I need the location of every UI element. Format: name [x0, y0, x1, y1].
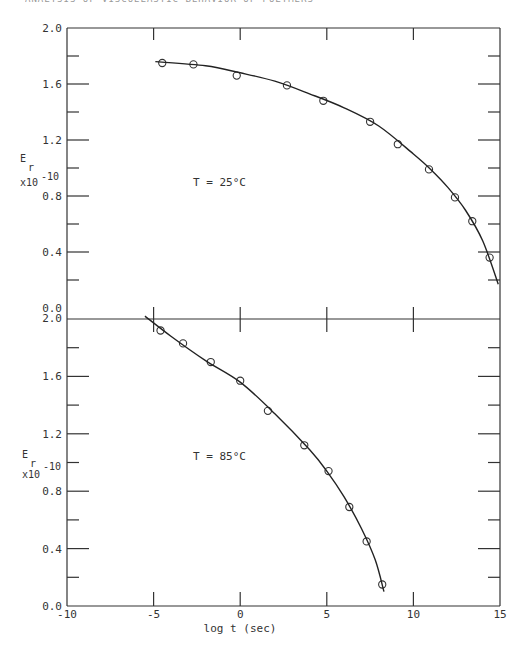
top-y-axis-title: E r x10 -10	[20, 153, 59, 188]
x-tick-label: -5	[147, 608, 160, 621]
data-point-marker	[159, 59, 166, 66]
bottom-y-axis-title: E r x10 -10	[22, 449, 61, 480]
x-tick-label: 10	[407, 608, 420, 621]
top-y-tick-labels: 2.01.61.20.80.40.0	[42, 22, 62, 315]
y-tick-label: 1.6	[42, 78, 62, 91]
x-axis-title: log t (sec)	[204, 622, 277, 635]
running-head: ANALYSIS OF VISCOELASTIC BEHAVIOR OF POL…	[25, 0, 505, 4]
y-tick-label: 0.8	[42, 190, 62, 203]
x-tick-label: 15	[493, 608, 506, 621]
ylabel-sub: r	[28, 162, 34, 173]
ylabel-main: E	[22, 449, 28, 460]
x-tick-label: -10	[57, 608, 77, 621]
top-panel-frame	[67, 28, 500, 606]
y-tick-label: 2.0	[42, 312, 62, 325]
data-point-marker	[264, 407, 271, 414]
top-series	[155, 59, 498, 284]
bottom-annotation: T = 85°C	[193, 450, 246, 463]
y-tick-label: 1.2	[42, 134, 62, 147]
axis-ticks	[67, 28, 500, 606]
ylabel-mult: x10	[20, 177, 38, 188]
fitted-curve	[155, 62, 498, 285]
chart: 2.01.61.20.80.40.0 2.01.61.20.80.40.0 -1…	[0, 0, 527, 648]
y-tick-label: 1.2	[42, 428, 62, 441]
ylabel-mult: x10	[22, 469, 40, 480]
top-annotation: T = 25°C	[193, 176, 246, 189]
ylabel-exp: -10	[41, 171, 59, 182]
y-tick-label: 1.6	[42, 370, 62, 383]
data-point-marker	[394, 141, 401, 148]
x-tick-label: 0	[237, 608, 244, 621]
ylabel-exp: -10	[43, 461, 61, 472]
y-tick-label: 0.8	[42, 485, 62, 498]
ylabel-sub: r	[30, 458, 36, 469]
figure: ANALYSIS OF VISCOELASTIC BEHAVIOR OF POL…	[0, 0, 527, 648]
data-point-marker	[301, 442, 308, 449]
fitted-curve	[145, 316, 384, 592]
x-tick-labels: -10-5051015	[57, 608, 507, 621]
x-tick-label: 5	[323, 608, 330, 621]
bottom-series	[145, 316, 386, 592]
y-tick-label: 2.0	[42, 22, 62, 35]
ylabel-main: E	[20, 153, 26, 164]
y-tick-label: 0.4	[42, 543, 62, 556]
y-tick-label: 0.4	[42, 246, 62, 259]
